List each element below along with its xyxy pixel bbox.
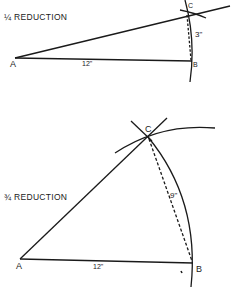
- d1-dashed-bc: [187, 15, 191, 60]
- d2-title: ¾ REDUCTION: [4, 192, 67, 202]
- d1-dim-bc: 3": [195, 30, 202, 39]
- d1-title: ¼ REDUCTION: [4, 12, 67, 22]
- d2-line-ac: [20, 118, 167, 259]
- d1-dim-ab: 12": [82, 60, 92, 67]
- d2-point-a: A: [16, 261, 22, 271]
- d2-line-ab: [20, 259, 193, 263]
- d2-tick-mark: [181, 271, 182, 273]
- d2-dim-bc: 9": [170, 191, 177, 200]
- d1-point-a: A: [10, 59, 16, 69]
- d2-point-b: B: [196, 264, 202, 274]
- d1-point-c: C: [188, 2, 193, 9]
- d2-arc-top: [115, 127, 215, 153]
- d2-arc-b: [148, 137, 192, 287]
- d2-dim-ab: 12": [93, 263, 103, 270]
- d2-dashed-bc: [149, 139, 192, 261]
- d2-point-c: C: [145, 124, 152, 134]
- d1-line-ab: [15, 58, 192, 61]
- diagram-drawing: [0, 0, 232, 290]
- d1-point-b: B: [193, 61, 198, 68]
